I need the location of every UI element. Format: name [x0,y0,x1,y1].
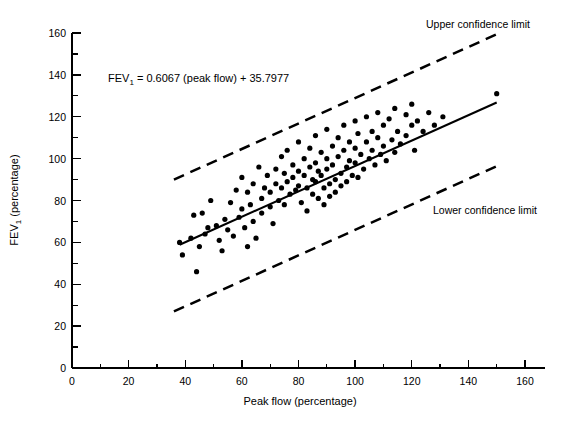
data-point [327,194,332,199]
data-point [353,146,358,151]
data-point [370,148,375,153]
data-point [253,236,258,241]
data-point [327,181,332,186]
data-point [200,210,205,215]
data-point [290,162,295,167]
data-point [336,154,341,159]
regression-equation-annotation: FEV1 = 0.6067 (peak flow) + 35.7977 [108,72,289,84]
data-point [248,202,253,207]
data-point [194,269,199,274]
data-point [282,202,287,207]
data-point [219,248,224,253]
data-point [353,160,358,165]
data-point [265,173,270,178]
data-point [296,183,301,188]
data-point [338,183,343,188]
data-point [324,166,329,171]
data-point [395,129,400,134]
data-point [336,135,341,140]
data-point [313,133,318,138]
data-point [302,156,307,161]
data-point [494,91,499,96]
data-point [268,190,273,195]
data-point [268,204,273,209]
data-point [333,190,338,195]
data-point [217,238,222,243]
data-point [387,116,392,121]
x-tick-label: 0 [69,376,75,387]
data-point [251,219,256,224]
data-point [239,206,244,211]
data-point [344,179,349,184]
data-point [307,164,312,169]
data-point [426,110,431,115]
data-point [375,135,380,140]
data-point [236,215,241,220]
data-point [381,143,386,148]
data-point [420,129,425,134]
data-point [384,158,389,163]
data-point [222,217,227,222]
data-point [285,179,290,184]
data-point [341,123,346,128]
y-tick-label: 20 [54,321,66,332]
data-point [202,231,207,236]
upper-confidence-limit-label: Upper confidence limit [426,18,530,30]
data-point [358,152,363,157]
data-point [333,177,338,182]
data-point [214,223,219,228]
data-point [347,139,352,144]
equation-base: FEV [108,72,129,84]
scatter-plot-figure: 020406080100120140160 020406080100120140… [0,0,567,428]
regression-line [180,103,497,245]
y-tick-label: 100 [48,153,66,164]
data-point [321,185,326,190]
data-point [208,198,213,203]
y-axis-ticks [72,33,81,347]
data-point [316,196,321,201]
data-point [239,175,244,180]
data-point [231,233,236,238]
data-point [319,173,324,178]
data-point [432,123,437,128]
x-tick-label: 100 [346,376,364,387]
data-point [279,185,284,190]
y-axis-title-subscript: 1 [14,220,23,224]
y-tick-label: 0 [60,363,66,374]
data-point [364,114,369,119]
data-point [262,185,267,190]
data-point [299,200,304,205]
equation-rest: = 0.6067 (peak flow) + 35.7977 [134,72,289,84]
data-point [344,164,349,169]
data-point [259,210,264,215]
data-point [361,166,366,171]
data-point [338,171,343,176]
data-point [324,156,329,161]
lower-confidence-line [174,165,500,312]
data-point [259,196,264,201]
y-axis-title-base: FEV [8,224,20,245]
data-point [245,190,250,195]
data-point [205,225,210,230]
data-point [310,192,315,197]
data-point [242,225,247,230]
data-point [273,181,278,186]
x-tick-label: 20 [123,376,135,387]
data-point [302,173,307,178]
x-tick-label: 120 [403,376,421,387]
data-point [313,179,318,184]
data-point [228,200,233,205]
equation-subscript: 1 [129,78,133,87]
y-tick-label: 160 [48,28,66,39]
data-point [398,141,403,146]
data-point [381,123,386,128]
data-point [370,129,375,134]
data-point [177,240,182,245]
data-point [353,118,358,123]
data-point [270,221,275,226]
x-tick-label: 60 [236,376,248,387]
data-point [197,244,202,249]
data-point [392,150,397,155]
x-tick-label: 140 [460,376,478,387]
y-axis-title-rest: (percentage) [8,154,20,219]
